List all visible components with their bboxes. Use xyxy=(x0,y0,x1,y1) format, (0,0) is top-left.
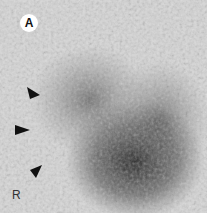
scintigraphy-image: A R xyxy=(0,0,207,213)
arrowhead-icon xyxy=(27,87,40,99)
arrowhead-icon xyxy=(30,165,42,178)
arrowheads xyxy=(0,0,207,213)
arrowhead-icon xyxy=(15,125,30,135)
